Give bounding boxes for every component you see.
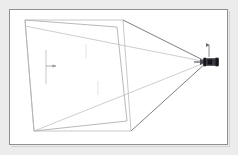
diagram-canvas	[0, 0, 238, 155]
tick-marks-group	[46, 44, 98, 95]
diagram-root: Perspective projection diagram Line-art …	[0, 0, 238, 155]
vehicle-cabin	[208, 60, 213, 65]
vehicle-wheel-rear	[204, 58, 206, 67]
vehicle-icon	[204, 58, 219, 67]
sight-lines-group	[25, 20, 207, 131]
sight-line-bottom	[131, 62, 207, 131]
sight-line-upper-mid	[25, 26, 207, 62]
sight-line-lower-mid	[34, 62, 207, 131]
vehicle-wheel-front	[216, 58, 219, 67]
sight-line-top	[123, 20, 207, 62]
